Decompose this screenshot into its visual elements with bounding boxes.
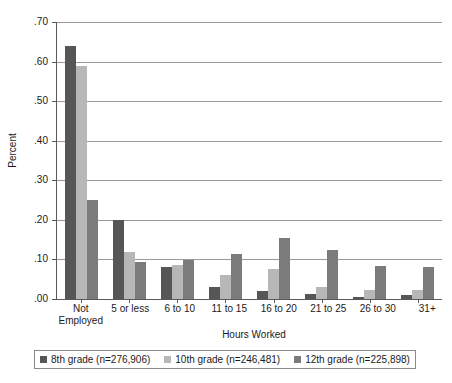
x-axis-tick-label: 5 or less <box>106 303 156 327</box>
bar[interactable] <box>76 66 87 299</box>
bar[interactable] <box>209 287 220 299</box>
bar-group <box>57 22 105 299</box>
bar[interactable] <box>183 260 194 299</box>
y-axis-tick-label: .50 <box>34 96 48 106</box>
y-axis-tick-label: .30 <box>34 175 48 185</box>
y-axis-ticks: .70.60.50.40.30.20.10.00 <box>22 14 52 306</box>
bar-group <box>394 22 442 299</box>
bar[interactable] <box>172 265 183 299</box>
bar[interactable] <box>305 294 316 299</box>
bar-group <box>201 22 249 299</box>
x-axis-tick-label: NotEmployed <box>56 303 106 327</box>
legend-swatch-icon <box>40 356 47 363</box>
bar-group <box>346 22 394 299</box>
bar-group <box>153 22 201 299</box>
bar-group <box>298 22 346 299</box>
bar[interactable] <box>279 238 290 299</box>
bar[interactable] <box>87 200 98 299</box>
bar[interactable] <box>113 220 124 299</box>
bar[interactable] <box>161 267 172 299</box>
legend-swatch-icon <box>164 356 171 363</box>
x-axis-title: Hours Worked <box>56 329 452 340</box>
y-axis-title: Percent <box>2 0 22 300</box>
bar[interactable] <box>124 252 135 299</box>
legend-item-label: 12th grade (n=225,898) <box>305 354 410 365</box>
legend: 8th grade (n=276,906)10th grade (n=246,4… <box>34 350 416 369</box>
legend-item[interactable]: 10th grade (n=246,481) <box>164 354 280 365</box>
y-axis-tick-label: .60 <box>34 57 48 67</box>
x-axis-tick-label: 31+ <box>403 303 452 327</box>
x-axis-tick-label: 26 to 30 <box>353 303 403 327</box>
chart-figure: Percent .70.60.50.40.30.20.10.00 NotEmpl… <box>0 0 452 383</box>
x-axis-tick-labels: NotEmployed5 or less6 to 1011 to 1516 to… <box>56 303 452 327</box>
legend-item-label: 8th grade (n=276,906) <box>51 354 150 365</box>
y-axis-tick-label: .20 <box>34 215 48 225</box>
legend-item-label: 10th grade (n=246,481) <box>175 354 280 365</box>
x-axis-tick-label: 6 to 10 <box>155 303 205 327</box>
bar-group <box>105 22 153 299</box>
y-axis-tick-label: .00 <box>34 294 48 304</box>
bar[interactable] <box>364 290 375 299</box>
bar[interactable] <box>220 275 231 299</box>
bar[interactable] <box>65 46 76 299</box>
plot-wrapper: .70.60.50.40.30.20.10.00 <box>22 14 442 306</box>
legend-item[interactable]: 8th grade (n=276,906) <box>40 354 150 365</box>
y-axis-tick-label: .70 <box>34 17 48 27</box>
bar[interactable] <box>375 266 386 299</box>
bar[interactable] <box>353 297 364 299</box>
x-axis-tick-label: 21 to 25 <box>304 303 354 327</box>
bar-groups <box>57 22 442 299</box>
bar[interactable] <box>327 250 338 299</box>
y-axis-tick-label: .40 <box>34 136 48 146</box>
plot-area <box>56 22 442 300</box>
y-axis-tick-label: .10 <box>34 254 48 264</box>
x-axis-tick-label: 16 to 20 <box>254 303 304 327</box>
bar-group <box>250 22 298 299</box>
bar[interactable] <box>412 290 423 299</box>
bar[interactable] <box>268 269 279 299</box>
x-axis-tick-label: 11 to 15 <box>205 303 255 327</box>
bar[interactable] <box>401 295 412 299</box>
legend-swatch-icon <box>294 356 301 363</box>
legend-item[interactable]: 12th grade (n=225,898) <box>294 354 410 365</box>
bar[interactable] <box>231 254 242 299</box>
bar[interactable] <box>423 267 434 299</box>
bar[interactable] <box>257 291 268 299</box>
y-axis-title-text: Percent <box>7 133 18 167</box>
bar[interactable] <box>316 287 327 299</box>
bar[interactable] <box>135 262 146 299</box>
